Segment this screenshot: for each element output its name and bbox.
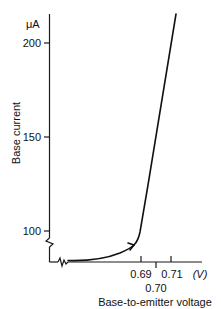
y-axis-break-icon [46,238,53,247]
y-tick-label-100: 100 [23,225,41,237]
curve-lower-segment [68,245,134,261]
y-unit-label: μA [26,18,40,30]
y-tick-label-150: 150 [23,131,41,143]
y-axis-title: Base current [10,102,22,164]
y-axis: μA 200 150 100 Base current [10,14,53,262]
x-axis-title: Base-to-emitter voltage [98,296,212,308]
x-axis-break-icon [58,258,68,266]
y-tick-label-200: 200 [23,37,41,49]
curve-upper-segment [134,14,176,245]
x-tick-label-0.71: 0.71 [161,268,182,280]
x-tick-label-0.70: 0.70 [145,282,166,294]
x-tick-label-0.69: 0.69 [130,268,151,280]
x-unit-label: (V) [193,268,208,280]
x-axis: 0.69 0.70 0.71 (V) Base-to-emitter volta… [50,256,212,308]
transistor-iv-chart: μA 200 150 100 Base current 0.69 0.70 0.… [0,0,221,309]
iv-curve [68,14,176,261]
